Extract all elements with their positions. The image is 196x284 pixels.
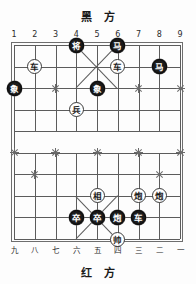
coord-label: 一 [173, 245, 187, 257]
xiangqi-diagram: 黑 方 123456789 将马车车马象象兵相炮炮卒卒炮车帅 九八七六五四三二一… [0, 0, 196, 284]
grid-line [14, 131, 180, 132]
coord-label: 9 [173, 29, 187, 41]
grid-line [35, 153, 36, 239]
grid-line [35, 45, 36, 131]
coord-label: 七 [49, 245, 63, 257]
coord-label: 九 [7, 245, 21, 257]
red-side-label: 红 方 [0, 264, 196, 280]
coord-label: 3 [49, 29, 63, 41]
piece-b-horse-2[interactable]: 马 [152, 59, 167, 74]
piece-b-elephant-2[interactable]: 象 [90, 81, 105, 96]
coord-label: 2 [28, 29, 42, 41]
bottom-coordinate-rail: 九八七六五四三二一 [14, 245, 180, 257]
grid-line [139, 45, 140, 131]
coord-label: 5 [90, 29, 104, 41]
grid-line [14, 239, 180, 240]
coord-label: 四 [111, 245, 125, 257]
coord-label: 7 [132, 29, 146, 41]
top-coordinate-rail: 123456789 [14, 29, 180, 41]
coord-label: 三 [132, 245, 146, 257]
piece-b-soldier-2[interactable]: 卒 [90, 210, 105, 225]
piece-b-general[interactable]: 将 [69, 38, 84, 53]
piece-b-soldier-1[interactable]: 卒 [69, 210, 84, 225]
grid-line [180, 45, 181, 239]
grid-line [56, 153, 57, 239]
coord-label: 8 [152, 29, 166, 41]
grid-line [14, 45, 15, 239]
piece-r-pawn-1[interactable]: 兵 [69, 102, 84, 117]
coord-label: 五 [90, 245, 104, 257]
grid-line [56, 45, 57, 131]
piece-b-horse-1[interactable]: 马 [110, 38, 125, 53]
coord-label: 1 [7, 29, 21, 41]
piece-b-chariot-1[interactable]: 车 [131, 210, 146, 225]
grid-line [118, 45, 119, 131]
black-side-label: 黑 方 [0, 8, 196, 24]
coord-label: 六 [69, 245, 83, 257]
grid-line [159, 45, 160, 131]
board-grid: 将马车车马象象兵相炮炮卒卒炮车帅 [14, 45, 180, 239]
coord-label: 八 [28, 245, 42, 257]
coord-label: 二 [152, 245, 166, 257]
piece-r-minister[interactable]: 相 [90, 188, 105, 203]
piece-b-elephant-1[interactable]: 象 [7, 81, 22, 96]
